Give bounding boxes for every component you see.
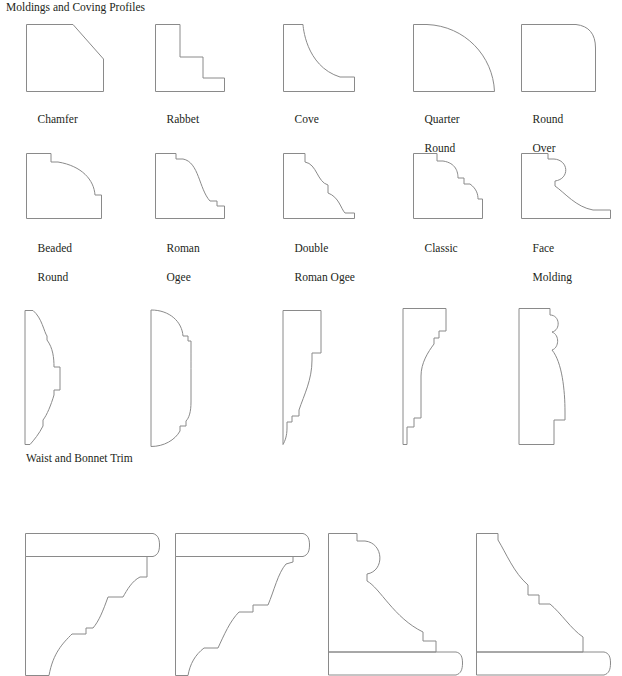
profile-shape-classic <box>413 153 483 219</box>
caption-line-2: Over <box>533 142 556 154</box>
profile-caption-beaded-round: Beaded Round <box>26 226 72 299</box>
profile-shape-crown-4 <box>476 533 611 676</box>
caption-line-1: Round <box>533 113 564 125</box>
caption-line-1: Rabbet <box>167 113 200 125</box>
caption-line-2: Ogee <box>167 271 191 283</box>
profile-shape-face-molding <box>521 153 611 219</box>
profile-caption-chamfer: Chamfer <box>26 97 78 141</box>
profile-shape-chamfer <box>26 24 104 92</box>
profile-caption-double-roman-ogee: Double Roman Ogee <box>283 226 355 299</box>
caption-line-1: Beaded <box>38 242 72 254</box>
profile-shape-cove <box>283 24 355 92</box>
profile-caption-roman-ogee: Roman Ogee <box>155 226 200 299</box>
caption-line-1: Classic <box>425 242 458 254</box>
caption-line-1: Face <box>533 242 555 254</box>
caption-line-1: Roman <box>167 242 200 254</box>
profile-shape-crown-2 <box>175 533 310 676</box>
caption-line-1: Double <box>295 242 329 254</box>
caption-line-1: Chamfer <box>38 113 78 125</box>
profile-shape-rabbet <box>155 24 225 92</box>
profile-shape-double-roman-ogee <box>283 153 355 219</box>
profile-shape-waist-trim-3 <box>282 310 322 445</box>
profile-shape-roman-ogee <box>155 153 225 219</box>
caption-line-2: Molding <box>533 271 573 283</box>
page-title: Moldings and Coving Profiles <box>6 1 145 14</box>
profile-shape-crown-1 <box>25 533 160 676</box>
profile-shape-waist-trim-5 <box>518 308 566 445</box>
profile-shape-waist-trim-1 <box>24 310 62 445</box>
profile-caption-classic: Classic <box>413 226 458 270</box>
profile-shape-waist-trim-2 <box>150 308 192 447</box>
section-title-waist-and-bonnet-trim: Waist and Bonnet Trim <box>26 452 133 465</box>
caption-line-1: Quarter <box>425 113 460 125</box>
profile-caption-face-molding: Face Molding <box>521 226 572 299</box>
caption-line-2: Roman Ogee <box>295 271 355 283</box>
profile-shape-quarter-round <box>413 24 495 92</box>
caption-line-2: Round <box>38 271 69 283</box>
profile-shape-waist-trim-4 <box>402 308 447 445</box>
caption-line-2: Round <box>425 142 456 154</box>
profile-caption-cove: Cove <box>283 97 319 141</box>
caption-line-1: Cove <box>295 113 319 125</box>
profile-shape-beaded-round <box>26 153 102 219</box>
profile-shape-round-over <box>521 24 596 92</box>
profile-caption-rabbet: Rabbet <box>155 97 199 141</box>
profile-shape-crown-3 <box>328 533 463 676</box>
